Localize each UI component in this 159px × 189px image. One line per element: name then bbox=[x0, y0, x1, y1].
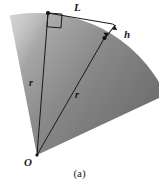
sagitta-label-h: h bbox=[124, 29, 130, 40]
center-point bbox=[35, 153, 38, 156]
radius-label-right: r bbox=[75, 90, 79, 100]
figure-container: L h r r O (a) bbox=[0, 0, 159, 189]
figure-caption: (a) bbox=[0, 168, 159, 179]
radius-label-left: r bbox=[29, 78, 33, 88]
chord-start-point bbox=[46, 11, 50, 15]
chord-label-L: L bbox=[74, 2, 81, 13]
center-label-O: O bbox=[24, 157, 32, 168]
